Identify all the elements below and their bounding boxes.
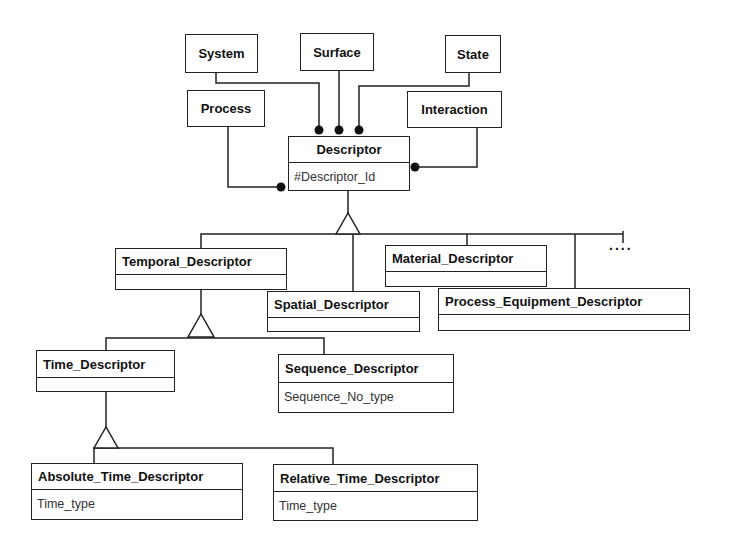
class-process-equipment-descriptor-name: Process_Equipment_Descriptor bbox=[439, 289, 689, 314]
class-surface-label: Surface bbox=[313, 45, 361, 60]
class-surface: Surface bbox=[300, 33, 374, 71]
assoc-process-line bbox=[228, 127, 281, 187]
class-time-descriptor-name: Time_Descriptor bbox=[37, 351, 174, 377]
class-spatial-descriptor: Spatial_Descriptor bbox=[267, 291, 420, 332]
assoc-dot-state bbox=[355, 126, 364, 135]
assoc-dot-interaction bbox=[411, 163, 420, 172]
class-temporal-descriptor-attribute bbox=[116, 274, 286, 289]
class-temporal-descriptor: Temporal_Descriptor bbox=[115, 248, 287, 290]
class-descriptor-name: Descriptor bbox=[289, 137, 409, 162]
class-descriptor: Descriptor #Descriptor_Id bbox=[288, 136, 410, 191]
class-time-descriptor: Time_Descriptor bbox=[36, 350, 175, 392]
class-system-label: System bbox=[198, 46, 244, 61]
class-sequence-descriptor: Sequence_Descriptor Sequence_No_type bbox=[278, 354, 454, 413]
uml-diagram: System Surface State Process Interaction… bbox=[0, 0, 729, 550]
class-absolute-time-descriptor-name: Absolute_Time_Descriptor bbox=[32, 464, 242, 489]
class-sequence-descriptor-name: Sequence_Descriptor bbox=[279, 355, 453, 382]
class-spatial-descriptor-attribute bbox=[268, 317, 419, 331]
class-time-descriptor-attribute bbox=[37, 377, 174, 391]
class-process-equipment-descriptor: Process_Equipment_Descriptor bbox=[438, 288, 690, 331]
assoc-dot-system bbox=[315, 126, 324, 135]
generalization-triangle-time bbox=[94, 427, 118, 448]
class-spatial-descriptor-name: Spatial_Descriptor bbox=[268, 292, 419, 317]
class-relative-time-descriptor-name: Relative_Time_Descriptor bbox=[274, 465, 477, 491]
class-interaction-label: Interaction bbox=[421, 102, 487, 117]
class-temporal-descriptor-name: Temporal_Descriptor bbox=[116, 249, 286, 274]
class-relative-time-descriptor: Relative_Time_Descriptor Time_type bbox=[273, 464, 478, 521]
generalization-triangle-temporal bbox=[188, 314, 214, 337]
class-process-equipment-descriptor-attribute bbox=[439, 314, 689, 330]
class-material-descriptor: Material_Descriptor bbox=[385, 245, 547, 287]
assoc-dot-process bbox=[277, 183, 286, 192]
class-absolute-time-descriptor: Absolute_Time_Descriptor Time_type bbox=[31, 463, 243, 520]
class-descriptor-attribute: #Descriptor_Id bbox=[289, 162, 409, 190]
class-material-descriptor-name: Material_Descriptor bbox=[386, 246, 546, 271]
class-process-label: Process bbox=[201, 101, 252, 116]
class-state-label: State bbox=[457, 47, 489, 62]
class-relative-time-descriptor-attribute: Time_type bbox=[274, 491, 477, 519]
more-subclasses-ellipsis: .... bbox=[609, 237, 633, 253]
generalization-triangle-descriptor bbox=[336, 213, 360, 234]
class-process: Process bbox=[187, 90, 265, 127]
class-material-descriptor-attribute bbox=[386, 271, 546, 286]
assoc-interaction-line bbox=[415, 128, 477, 167]
class-absolute-time-descriptor-attribute: Time_type bbox=[32, 489, 242, 518]
class-sequence-descriptor-attribute: Sequence_No_type bbox=[279, 382, 453, 411]
class-system: System bbox=[185, 34, 258, 73]
class-interaction: Interaction bbox=[407, 91, 502, 128]
class-state: State bbox=[445, 35, 501, 73]
assoc-dot-surface bbox=[335, 126, 344, 135]
